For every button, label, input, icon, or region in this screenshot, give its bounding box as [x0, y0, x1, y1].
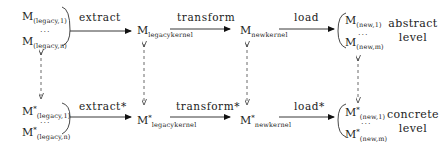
legacy-model-star-last: M*(legacy,n) [22, 125, 71, 143]
abstract-level-label: abstract level [385, 17, 441, 45]
legacy-model-ellipsis: ... [40, 27, 51, 33]
new-model-ellipsis: ... [358, 30, 369, 36]
new-kernel: Mnewkernel [240, 25, 288, 41]
extract-label: extract [79, 11, 121, 23]
transform-label: transform [177, 11, 235, 23]
new-model-last: M(new,m) [345, 37, 384, 53]
concrete-level-label: concrete level [385, 108, 441, 136]
legacy-model-last: M(legacy,n) [22, 36, 67, 52]
legacy-kernel: Mlegacykernel [137, 25, 193, 41]
legacy-kernel-star: M*legacykernel [137, 113, 196, 131]
transform-star-label: transform* [176, 100, 240, 112]
legacy-model-star-ellipsis: ... [40, 118, 51, 124]
load-star-label: load* [294, 100, 325, 112]
new-model-star-last: M*(new,m) [345, 127, 387, 145]
new-model-star-ellipsis: ... [361, 119, 372, 125]
new-kernel-star: M*newkernel [240, 113, 291, 131]
load-label: load [294, 11, 319, 23]
extract-star-label: extract* [79, 100, 127, 112]
